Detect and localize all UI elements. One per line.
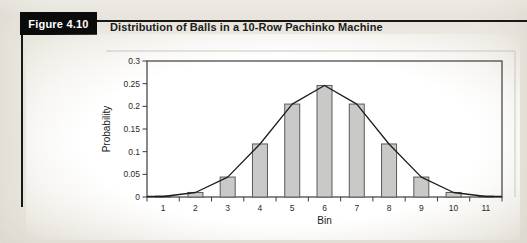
bar <box>285 104 300 197</box>
y-axis-tick-label: 0.2 <box>128 101 140 111</box>
x-axis-tick-label: 8 <box>387 203 392 213</box>
figure-title: Distribution of Balls in a 10-Row Pachin… <box>110 21 383 33</box>
y-axis-tick-label: 0.15 <box>123 124 140 134</box>
bar <box>349 104 364 197</box>
bar <box>382 144 397 197</box>
x-axis-tick-label: 5 <box>290 203 295 213</box>
y-axis-tick-label: 0.1 <box>128 147 140 157</box>
x-axis-tick-label: 1 <box>161 203 166 213</box>
figure-label-box: Figure 4.10 <box>20 12 97 35</box>
textbook-page: Figure 4.10 Distribution of Balls in a 1… <box>0 0 527 243</box>
x-axis-tick-label: 11 <box>481 203 490 213</box>
x-axis-tick-label: 10 <box>449 203 459 213</box>
y-axis-tick-label: 0.3 <box>128 56 140 66</box>
chart-outer-border <box>106 51 515 197</box>
x-axis-tick-label: 7 <box>354 203 359 213</box>
y-axis-tick-label: 0.05 <box>123 169 140 179</box>
x-axis-tick-label: 3 <box>225 203 230 213</box>
figure-left-rule <box>21 35 23 207</box>
pachinko-distribution-chart: 00.050.10.150.20.250.31234567891011Proba… <box>94 40 518 240</box>
x-axis-tick-label: 6 <box>322 203 327 213</box>
y-axis-title: Probability <box>101 106 112 153</box>
y-axis-tick-label: 0 <box>135 192 140 202</box>
x-axis-title: Bin <box>317 215 331 226</box>
x-axis-tick-label: 9 <box>419 203 424 213</box>
bar <box>317 85 332 197</box>
figure-label: Figure 4.10 <box>28 18 88 30</box>
y-axis-tick-label: 0.25 <box>123 79 140 89</box>
x-axis-tick-label: 4 <box>258 203 263 213</box>
bar <box>252 144 267 197</box>
x-axis-tick-label: 2 <box>193 203 198 213</box>
